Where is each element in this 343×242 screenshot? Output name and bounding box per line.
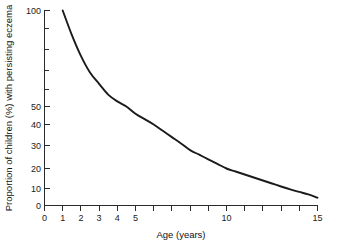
- y-tick-label-10: 10: [31, 184, 41, 194]
- y-axis-major-ticks: [45, 11, 51, 206]
- y-axis-title: Proportion of children (%) with persisti…: [3, 4, 14, 211]
- y-axis-minor-ticks: [45, 29, 50, 90]
- y-tick-label-50: 50: [31, 102, 41, 112]
- x-axis-ticks: [45, 206, 318, 212]
- y-tick-label-0: 0: [36, 201, 41, 211]
- chart-figure: 100 50 40 30 20 10 0 0 1 2: [0, 0, 343, 242]
- x-tick-label-5: 5: [133, 213, 138, 223]
- x-tick-label-3: 3: [97, 213, 102, 223]
- x-tick-label-10: 10: [221, 213, 231, 223]
- x-tick-label-15: 15: [312, 213, 322, 223]
- y-tick-label-30: 30: [31, 141, 41, 151]
- x-tick-label-4: 4: [115, 213, 120, 223]
- y-tick-label-40: 40: [31, 120, 41, 130]
- x-tick-label-0: 0: [42, 213, 47, 223]
- y-tick-label-20: 20: [31, 164, 41, 174]
- y-tick-label-100: 100: [26, 6, 41, 16]
- data-curve-persisting-eczema: [63, 11, 318, 198]
- chart-plot-area: 100 50 40 30 20 10 0 0 1 2: [0, 0, 343, 242]
- x-axis-title: Age (years): [156, 229, 205, 240]
- x-tick-label-2: 2: [78, 213, 83, 223]
- x-tick-label-1: 1: [60, 213, 65, 223]
